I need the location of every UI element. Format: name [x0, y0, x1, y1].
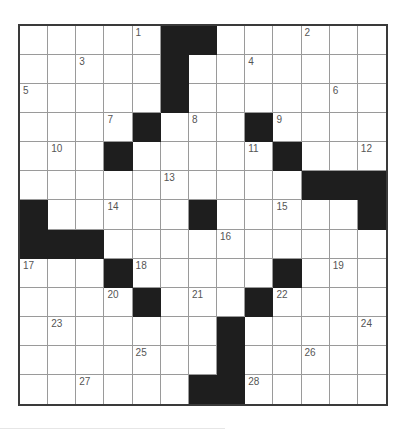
grid-cell[interactable]: 17: [20, 259, 48, 288]
grid-cell[interactable]: [302, 375, 330, 404]
grid-cell[interactable]: [48, 171, 76, 200]
grid-cell[interactable]: [20, 346, 48, 375]
grid-cell[interactable]: [245, 230, 273, 259]
grid-cell[interactable]: [161, 346, 189, 375]
grid-cell[interactable]: [330, 317, 358, 346]
grid-cell[interactable]: [245, 171, 273, 200]
grid-cell[interactable]: [48, 55, 76, 84]
grid-cell[interactable]: [273, 26, 301, 55]
grid-cell[interactable]: [133, 200, 161, 229]
grid-cell[interactable]: [217, 171, 245, 200]
grid-cell[interactable]: [161, 375, 189, 404]
grid-cell[interactable]: 6: [330, 84, 358, 113]
grid-cell[interactable]: 13: [161, 171, 189, 200]
grid-cell[interactable]: [358, 230, 386, 259]
grid-cell[interactable]: 23: [48, 317, 76, 346]
grid-cell[interactable]: [48, 26, 76, 55]
grid-cell[interactable]: [302, 259, 330, 288]
grid-cell[interactable]: [20, 113, 48, 142]
grid-cell[interactable]: [133, 142, 161, 171]
grid-cell[interactable]: [20, 55, 48, 84]
grid-cell[interactable]: [273, 375, 301, 404]
grid-cell[interactable]: [189, 317, 217, 346]
grid-cell[interactable]: [273, 317, 301, 346]
grid-cell[interactable]: [302, 200, 330, 229]
grid-cell[interactable]: [217, 288, 245, 317]
grid-cell[interactable]: [189, 346, 217, 375]
grid-cell[interactable]: 2: [302, 26, 330, 55]
grid-cell[interactable]: [20, 26, 48, 55]
grid-cell[interactable]: [217, 113, 245, 142]
grid-cell[interactable]: [76, 26, 104, 55]
grid-cell[interactable]: [48, 84, 76, 113]
grid-cell[interactable]: [273, 230, 301, 259]
grid-cell[interactable]: 21: [189, 288, 217, 317]
grid-cell[interactable]: [245, 200, 273, 229]
grid-cell[interactable]: [302, 55, 330, 84]
grid-cell[interactable]: [76, 113, 104, 142]
grid-cell[interactable]: 11: [245, 142, 273, 171]
grid-cell[interactable]: [76, 171, 104, 200]
grid-cell[interactable]: [358, 259, 386, 288]
grid-cell[interactable]: [245, 84, 273, 113]
grid-cell[interactable]: [104, 375, 132, 404]
grid-cell[interactable]: [189, 230, 217, 259]
grid-cell[interactable]: [330, 230, 358, 259]
grid-cell[interactable]: [330, 55, 358, 84]
grid-cell[interactable]: [161, 288, 189, 317]
grid-cell[interactable]: [330, 375, 358, 404]
grid-cell[interactable]: 26: [302, 346, 330, 375]
grid-cell[interactable]: [76, 200, 104, 229]
grid-cell[interactable]: [245, 317, 273, 346]
grid-cell[interactable]: [273, 346, 301, 375]
grid-cell[interactable]: [245, 346, 273, 375]
grid-cell[interactable]: [48, 375, 76, 404]
grid-cell[interactable]: [161, 317, 189, 346]
grid-cell[interactable]: [217, 55, 245, 84]
grid-cell[interactable]: [104, 317, 132, 346]
grid-cell[interactable]: [302, 317, 330, 346]
grid-cell[interactable]: [302, 288, 330, 317]
grid-cell[interactable]: [330, 26, 358, 55]
grid-cell[interactable]: 12: [358, 142, 386, 171]
grid-cell[interactable]: 20: [104, 288, 132, 317]
grid-cell[interactable]: [48, 346, 76, 375]
grid-cell[interactable]: 28: [245, 375, 273, 404]
grid-cell[interactable]: 9: [273, 113, 301, 142]
grid-cell[interactable]: [161, 259, 189, 288]
grid-cell[interactable]: [20, 142, 48, 171]
grid-cell[interactable]: [48, 288, 76, 317]
grid-cell[interactable]: [189, 55, 217, 84]
grid-cell[interactable]: [358, 288, 386, 317]
grid-cell[interactable]: [217, 142, 245, 171]
grid-cell[interactable]: [133, 230, 161, 259]
grid-cell[interactable]: [358, 26, 386, 55]
grid-cell[interactable]: [302, 113, 330, 142]
grid-cell[interactable]: [76, 142, 104, 171]
grid-cell[interactable]: [20, 288, 48, 317]
grid-cell[interactable]: [20, 375, 48, 404]
grid-cell[interactable]: 18: [133, 259, 161, 288]
grid-cell[interactable]: 3: [76, 55, 104, 84]
grid-cell[interactable]: [133, 317, 161, 346]
grid-cell[interactable]: [133, 55, 161, 84]
grid-cell[interactable]: [358, 84, 386, 113]
grid-cell[interactable]: [104, 84, 132, 113]
grid-cell[interactable]: [358, 113, 386, 142]
grid-cell[interactable]: 24: [358, 317, 386, 346]
grid-cell[interactable]: [189, 142, 217, 171]
grid-cell[interactable]: [48, 113, 76, 142]
grid-cell[interactable]: [273, 84, 301, 113]
grid-cell[interactable]: 14: [104, 200, 132, 229]
grid-cell[interactable]: 8: [189, 113, 217, 142]
grid-cell[interactable]: [302, 230, 330, 259]
grid-cell[interactable]: [217, 200, 245, 229]
grid-cell[interactable]: [104, 26, 132, 55]
grid-cell[interactable]: [330, 142, 358, 171]
grid-cell[interactable]: 16: [217, 230, 245, 259]
grid-cell[interactable]: [76, 346, 104, 375]
grid-cell[interactable]: [358, 55, 386, 84]
grid-cell[interactable]: [104, 171, 132, 200]
grid-cell[interactable]: [161, 113, 189, 142]
grid-cell[interactable]: [189, 84, 217, 113]
